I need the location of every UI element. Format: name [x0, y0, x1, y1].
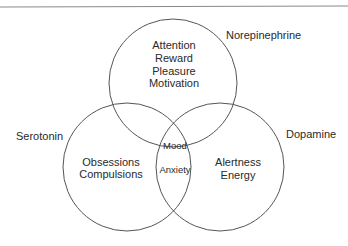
- region-text: Attention: [152, 39, 195, 51]
- norepinephrine-label: Norepinephrine: [226, 29, 301, 41]
- dopamine-label: Dopamine: [286, 128, 336, 140]
- dopamine-region: Alertness Energy: [215, 156, 261, 181]
- venn-diagram: Norepinephrine Serotonin Dopamine Attent…: [0, 0, 348, 246]
- mood-label: Mood: [163, 140, 187, 151]
- serotonin-region: Obsessions Compulsions: [79, 156, 143, 180]
- region-text: Energy: [221, 169, 256, 181]
- region-text: Alertness: [215, 156, 261, 168]
- region-text: Obsessions: [82, 156, 140, 168]
- region-text: Reward: [155, 52, 193, 64]
- top-rule: [0, 6, 348, 7]
- serotonin-label: Serotonin: [16, 130, 63, 142]
- anxiety-label: Anxiety: [159, 164, 190, 175]
- norepinephrine-region: Attention Reward Pleasure Motivation: [149, 39, 199, 89]
- region-text: Compulsions: [79, 168, 143, 180]
- region-text: Pleasure: [152, 65, 195, 77]
- region-text: Motivation: [149, 77, 199, 89]
